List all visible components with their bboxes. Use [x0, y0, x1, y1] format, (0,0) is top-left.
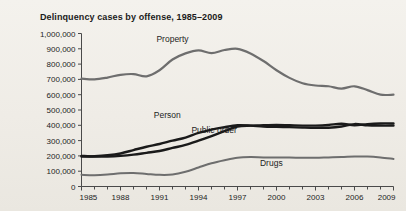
y-tick-label: 900,000	[47, 45, 76, 54]
series-line-person	[82, 124, 394, 156]
x-tick-label: 2006	[346, 193, 364, 202]
series-label-person: Person	[154, 110, 181, 120]
x-tick-label: 1991	[151, 193, 169, 202]
series-label-property: Property	[156, 34, 189, 44]
x-tick-label: 2000	[268, 193, 286, 202]
y-tick-label: 300,000	[47, 137, 76, 146]
y-axis-tick-labels: 0100,000200,000300,000400,000500,000600,…	[40, 30, 76, 192]
y-tick-label: 500,000	[47, 106, 76, 115]
page-background: Delinquency cases by offense, 1985–2009 …	[0, 0, 406, 211]
series-line-drugs	[82, 156, 394, 175]
x-tick-label: 1988	[112, 193, 130, 202]
line-chart-svg: 0100,000200,000300,000400,000500,000600,…	[0, 0, 406, 211]
chart-figure: 0100,000200,000300,000400,000500,000600,…	[0, 0, 406, 211]
y-tick-label: 1,000,000	[40, 30, 76, 39]
x-tick-label: 1985	[80, 193, 98, 202]
y-tick-label: 0	[71, 183, 76, 192]
y-tick-label: 400,000	[47, 121, 76, 130]
series-line-property	[82, 49, 394, 95]
y-axis-tick-marks	[78, 34, 82, 187]
x-tick-label: 1997	[229, 193, 247, 202]
series-label-drugs: Drugs	[260, 158, 283, 168]
x-tick-label: 2003	[307, 193, 325, 202]
y-tick-label: 700,000	[47, 75, 76, 84]
y-tick-label: 800,000	[47, 60, 76, 69]
y-tick-label: 600,000	[47, 91, 76, 100]
y-tick-label: 200,000	[47, 152, 76, 161]
x-tick-label: 1994	[190, 193, 208, 202]
x-axis-tick-labels: 198519881991199419972000200320062009	[80, 193, 397, 202]
y-tick-label: 100,000	[47, 167, 76, 176]
x-tick-label: 2009	[378, 193, 396, 202]
data-series-group	[82, 49, 394, 176]
series-label-public-order: Public order	[191, 125, 237, 135]
x-axis-tick-marks	[82, 187, 394, 191]
